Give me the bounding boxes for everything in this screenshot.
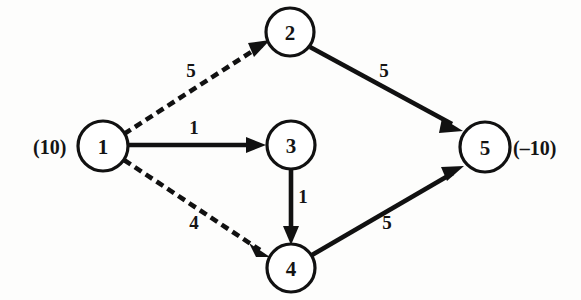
edge-2-to-5[interactable]: 5 [310, 47, 463, 133]
node-3[interactable]: 3 [267, 121, 315, 169]
edge-2-to-5-cost-label: 5 [379, 60, 389, 81]
edge-3-to-4[interactable]: 1 [283, 168, 308, 245]
edge-1-to-4-cost-label: 4 [189, 212, 199, 233]
node-1-label: 1 [98, 135, 109, 159]
edge-4-to-5[interactable]: 5 [312, 166, 464, 255]
node-2[interactable]: 2 [266, 8, 314, 56]
node-4-label: 4 [286, 257, 297, 281]
node-3-label: 3 [286, 134, 297, 158]
node-5-label: 5 [480, 136, 491, 160]
edge-1-to-4[interactable]: 4 [124, 160, 270, 257]
edge-1-to-4-arrowhead [249, 243, 270, 257]
edge-3-to-4-cost-label: 1 [298, 186, 308, 207]
edge-2-to-5-arrowhead [439, 118, 463, 133]
network-diagram-canvas: 5 1 4 1 [0, 0, 581, 300]
node-1[interactable]: 1 [78, 121, 128, 171]
edge-3-to-4-arrowhead [283, 226, 299, 245]
node-2-label: 2 [285, 21, 296, 45]
node-5-supply-label: (–10) [513, 137, 556, 160]
edge-1-to-2-cost-label: 5 [186, 60, 196, 81]
node-5[interactable]: 5 [460, 122, 510, 172]
node-4[interactable]: 4 [267, 244, 315, 292]
edge-1-to-3[interactable]: 1 [128, 117, 266, 154]
edge-1-to-4-line [124, 160, 260, 250]
edge-4-to-5-cost-label: 5 [382, 212, 392, 233]
node-1-supply-label: (10) [33, 136, 66, 159]
edge-1-to-3-arrowhead [246, 137, 266, 153]
node-group: 1 (10) 2 3 4 5 (–10) [33, 8, 556, 292]
network-diagram: 5 1 4 1 [0, 0, 581, 300]
edge-1-to-3-cost-label: 1 [189, 117, 199, 138]
